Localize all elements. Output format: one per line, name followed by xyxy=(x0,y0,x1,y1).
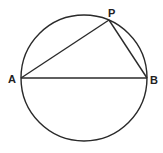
segment-ap xyxy=(21,20,109,78)
point-label-b: B xyxy=(150,74,158,86)
segment-pb xyxy=(109,20,147,78)
point-label-p: P xyxy=(108,7,115,19)
point-label-a: A xyxy=(8,73,16,85)
geometry-diagram: A B P xyxy=(0,0,163,153)
